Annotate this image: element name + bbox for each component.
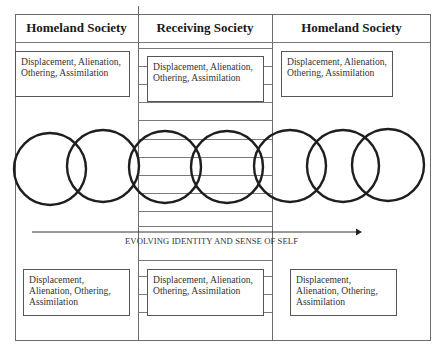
arrow-label: EVOLVING IDENTITY AND SENSE OF SELF: [125, 236, 298, 246]
circle-7: [352, 129, 424, 201]
identity-circles-and-arrow: [0, 0, 444, 346]
arrow-head-icon: [356, 229, 362, 236]
arrow: [32, 229, 362, 236]
circle-5: [254, 130, 326, 202]
circle-6: [307, 130, 379, 202]
identity-circles: [14, 129, 424, 205]
